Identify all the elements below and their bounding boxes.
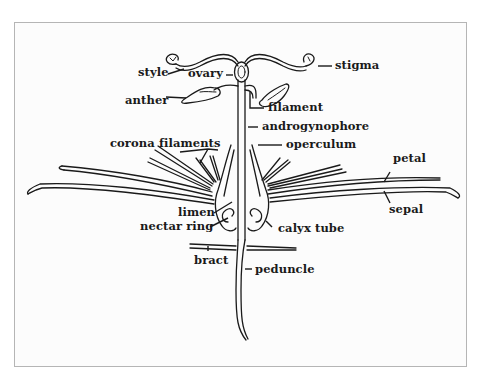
stigma-shape [166,54,314,66]
peduncle-shape [236,240,248,340]
sepal-shape [28,184,460,204]
label-androgynophore: androgynophore [262,121,369,133]
label-sepal: sepal [389,204,423,216]
label-petal: petal [393,153,426,165]
androgynophore-shape [238,80,245,240]
label-stigma: stigma [335,60,379,72]
label-ovary: ovary [188,68,223,80]
label-limen: limen [178,207,215,219]
label-anther: anther [125,95,168,107]
label-filament: filament [268,102,323,114]
passion-flower-diagram [0,0,480,374]
nectar-ring-shape [222,209,261,222]
label-calyx-tube: calyx tube [278,223,344,235]
operculum-shape [215,145,268,231]
label-nectar-ring: nectar ring [140,221,213,233]
label-peduncle: peduncle [255,264,315,276]
label-corona-filaments: corona filaments [110,138,221,150]
label-style: style [138,67,169,79]
label-operculum: operculum [286,139,356,151]
label-bract: bract [194,255,228,267]
